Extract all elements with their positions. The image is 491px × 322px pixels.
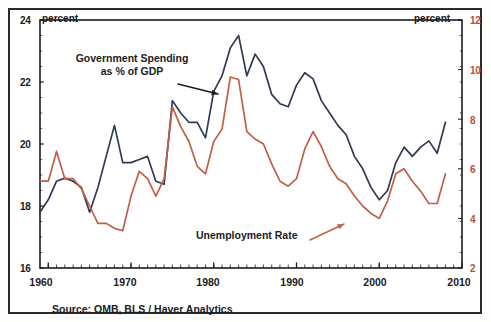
chart-figure: percent percent 24 22 20 18 16 12 10 8 6… — [0, 0, 491, 322]
chart-canvas — [0, 0, 491, 322]
